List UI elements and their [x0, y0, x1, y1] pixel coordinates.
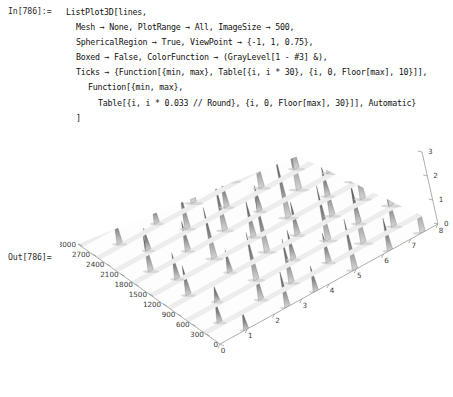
- code-line-6: Function[{min, max},: [66, 80, 453, 95]
- surface-plot-svg: 30002700240021001800150012009006003000 8…: [60, 140, 453, 397]
- surface-spike: [286, 140, 299, 148]
- surface-spike: [182, 149, 197, 204]
- svg-text:2400: 2400: [86, 260, 105, 269]
- code-line-7: Table[{i, i * 0.033 // Round}, {i, 0, Fl…: [66, 96, 453, 111]
- svg-text:1500: 1500: [129, 290, 148, 299]
- surface-spike: [138, 162, 150, 207]
- surface-spike: [307, 140, 326, 155]
- svg-text:3: 3: [428, 147, 433, 156]
- svg-text:5: 5: [357, 271, 362, 280]
- output-prompt-label: Out[786]=: [8, 252, 51, 262]
- svg-text:3000: 3000: [60, 240, 76, 249]
- svg-text:1200: 1200: [143, 300, 162, 309]
- svg-text:6: 6: [384, 256, 389, 265]
- surface-spike: [105, 209, 112, 228]
- svg-text:0: 0: [213, 340, 218, 349]
- svg-text:8: 8: [439, 226, 444, 235]
- svg-text:0: 0: [444, 219, 449, 228]
- code-line-1: ListPlot3D[lines,: [66, 5, 453, 20]
- surface-base-plane: [78, 156, 438, 344]
- svg-text:1: 1: [248, 331, 253, 340]
- input-prompt-label: In[786]:=: [8, 6, 51, 16]
- svg-text:4: 4: [330, 286, 335, 295]
- svg-text:2700: 2700: [72, 250, 91, 259]
- svg-text:600: 600: [176, 320, 190, 329]
- code-line-3: SphericalRegion → True, ViewPoint → {-1,…: [66, 35, 453, 50]
- svg-text:7: 7: [411, 241, 416, 250]
- svg-text:2: 2: [275, 316, 280, 325]
- surface-spike: [254, 140, 270, 163]
- surface-spike: [178, 156, 187, 186]
- input-code-cell[interactable]: ListPlot3D[lines, Mesh → None, PlotRange…: [66, 5, 453, 126]
- code-line-4: Boxed → False, ColorFunction → (GrayLeve…: [66, 50, 453, 65]
- svg-text:0: 0: [221, 346, 226, 355]
- code-line-2: Mesh → None, PlotRange → All, ImageSize …: [66, 20, 453, 35]
- surface-spike: [225, 145, 236, 182]
- surface-spike: [207, 140, 222, 167]
- surface-spike: [246, 140, 257, 148]
- code-line-5: Ticks → {Function[{min, max}, Table[{i, …: [66, 65, 453, 80]
- svg-text:300: 300: [190, 330, 204, 339]
- svg-text:1: 1: [439, 195, 444, 204]
- vertical-axis-ticks: 0123: [418, 147, 449, 228]
- svg-text:2100: 2100: [100, 270, 119, 279]
- mathematica-notebook: In[786]:= ListPlot3D[lines, Mesh → None,…: [0, 0, 453, 397]
- svg-text:1800: 1800: [115, 280, 134, 289]
- svg-text:2: 2: [433, 171, 438, 180]
- svg-text:900: 900: [162, 310, 176, 319]
- surface-spike: [341, 140, 356, 183]
- listplot3d-graphics-output[interactable]: 30002700240021001800150012009006003000 8…: [60, 140, 453, 397]
- svg-text:3: 3: [302, 301, 307, 310]
- code-line-8: ]: [66, 111, 453, 126]
